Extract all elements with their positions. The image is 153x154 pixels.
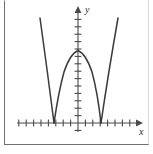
y-axis-group [75,6,82,132]
y-axis-label: y [84,4,90,15]
x-axis-group [17,120,143,127]
y-axis-arrowhead [75,6,82,13]
x-axis-label: x [138,126,144,137]
figure-root: y x [0,0,153,154]
w-curve-right-branch [101,18,118,123]
w-curve-left-branch [40,18,54,123]
graph-canvas: y x [0,0,153,154]
